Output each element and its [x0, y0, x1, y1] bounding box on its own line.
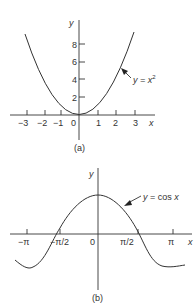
chart-b-y-label: y [88, 169, 94, 179]
caption-b: (b) [92, 293, 103, 303]
x-tick-label: 2 [113, 118, 118, 128]
chart-b-x-label: x [187, 237, 193, 247]
figure-canvas: y x 8 6 4 2 −3 −2 −1 0 1 2 3 y = x2 (a) … [0, 0, 195, 304]
y-tick-label-6: 6 [72, 57, 77, 67]
y-tick-label-8: 8 [72, 40, 77, 50]
x-tick-label: π [168, 237, 174, 247]
chart-a-x-label: x [148, 118, 154, 128]
cosine-curve [15, 195, 185, 268]
annotation-a: y = x2 [132, 74, 156, 85]
x-tick-label: 3 [133, 118, 138, 128]
x-tick-label: 1 [96, 118, 101, 128]
caption-a: (a) [74, 143, 85, 153]
y-tick-label-2: 2 [72, 93, 77, 103]
x-tick-label: π/2 [120, 237, 134, 247]
x-tick-label: 0 [71, 118, 76, 128]
annotation-b: y = cos x [142, 192, 179, 202]
x-tick-label: −1 [53, 118, 63, 128]
chart-a-y-label: y [68, 18, 74, 28]
arrow-head-icon [124, 200, 132, 206]
x-tick-label: −3 [18, 118, 28, 128]
x-tick-label: −π [18, 237, 29, 247]
x-tick-label: 0 [90, 237, 95, 247]
x-tick-label: −π/2 [50, 237, 69, 247]
chart-b [10, 168, 192, 290]
x-tick-label: −2 [37, 118, 47, 128]
y-tick-label-4: 4 [72, 75, 77, 85]
